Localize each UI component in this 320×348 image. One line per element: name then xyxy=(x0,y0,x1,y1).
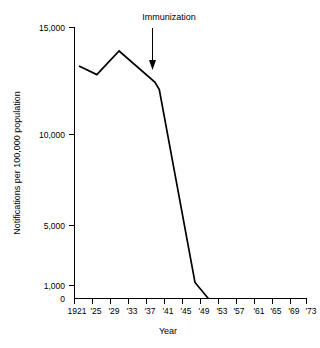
x-tick-label: '29 xyxy=(108,306,119,316)
x-tick-label: '45 xyxy=(180,306,191,316)
chart-container: 15,000 10,000 5,000 1,000 0 1921 ' xyxy=(0,0,320,348)
x-tick-label: '61 xyxy=(253,306,264,316)
x-tick-label: '49 xyxy=(198,306,209,316)
x-axis-title: Year xyxy=(159,326,177,336)
x-tick-label: '57 xyxy=(233,306,244,316)
immunization-annotation: Immunization xyxy=(142,12,196,70)
x-tick-label: '25 xyxy=(90,306,101,316)
y-tick-label: 0 xyxy=(60,294,65,304)
x-tick-label: '33 xyxy=(126,306,137,316)
x-tick-label: '73 xyxy=(305,306,316,316)
y-tick-label: 15,000 xyxy=(39,23,65,33)
y-axis-title: Notifications per 100,000 population xyxy=(12,91,22,235)
y-tick-marks xyxy=(69,28,75,286)
x-tick-label: 1921 xyxy=(68,306,87,316)
y-tick-label: 10,000 xyxy=(39,130,65,140)
line-chart: 15,000 10,000 5,000 1,000 0 1921 ' xyxy=(0,0,320,348)
x-tick-labels: 1921 '25 '29 '33 '37 '41 '45 '49 '53 '57… xyxy=(68,306,317,316)
y-tick-labels: 15,000 10,000 5,000 1,000 0 xyxy=(39,23,65,304)
x-tick-label: '37 xyxy=(144,306,155,316)
x-tick-label: '53 xyxy=(216,306,227,316)
x-tick-label: '69 xyxy=(288,306,299,316)
data-series-line xyxy=(79,51,208,299)
y-tick-label: 5,000 xyxy=(44,221,66,231)
x-tick-label: '65 xyxy=(270,306,281,316)
x-tick-label: '41 xyxy=(162,306,173,316)
x-tick-marks xyxy=(75,299,307,305)
y-tick-label: 1,000 xyxy=(44,281,66,291)
down-arrow-icon xyxy=(149,60,156,70)
annotation-label: Immunization xyxy=(142,12,196,22)
